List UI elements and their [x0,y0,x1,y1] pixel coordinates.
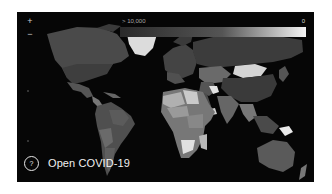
region-europe[interactable] [163,34,197,84]
zoom-in-button[interactable]: + [25,16,35,26]
help-icon[interactable]: ? [24,156,39,171]
side-marker [27,140,29,142]
color-scale-legend: > 10,000 0 [120,18,306,38]
region-caribbean[interactable] [103,92,121,98]
region-north-america[interactable] [47,24,129,106]
legend-max-label: 0 [302,18,305,24]
region-russia[interactable] [193,34,303,68]
side-marker [27,90,29,92]
region-papua[interactable] [279,126,293,136]
region-australia[interactable] [257,140,295,172]
map-container[interactable]: + − > 10,000 0 ? Open COVID-19 [17,12,314,182]
legend-min-label: > 10,000 [122,18,146,24]
zoom-out-button[interactable]: − [25,29,35,39]
region-southeast-asia[interactable] [253,116,279,134]
region-new-zealand[interactable] [299,164,307,180]
legend-gradient-bar [120,27,306,37]
app-title-link[interactable]: Open COVID-19 [48,157,130,170]
region-east-asia-islands[interactable] [279,66,289,82]
